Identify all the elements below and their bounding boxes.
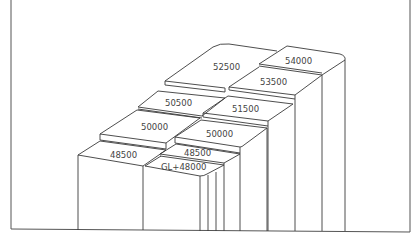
caption — [10, 234, 180, 242]
label-mid-left: 50500 — [165, 98, 192, 108]
label-ground: GL+48000 — [161, 162, 206, 172]
frame — [11, 0, 410, 232]
label-base-left: 48500 — [110, 150, 137, 160]
label-top-left: 52500 — [213, 62, 240, 72]
label-base-right: 48500 — [184, 148, 211, 158]
label-mid-right: 51500 — [232, 104, 259, 114]
elevation-diagram: 52500 54000 53500 50500 51500 50000 5000… — [0, 0, 418, 245]
label-lower-left: 50000 — [141, 122, 168, 132]
label-top-right: 54000 — [285, 56, 312, 66]
label-lower-right: 50000 — [206, 129, 233, 139]
label-second-right: 53500 — [260, 77, 287, 87]
